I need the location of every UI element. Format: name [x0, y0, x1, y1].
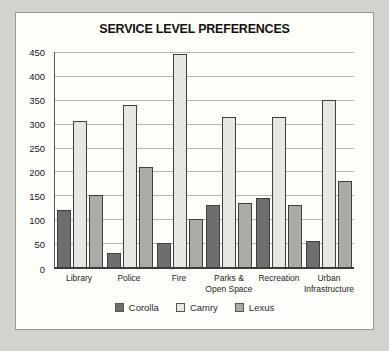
- bar-lexus-1: [89, 195, 103, 267]
- legend-item-camry: Camry: [176, 302, 218, 313]
- y-axis-labels: 050100150200250300350400450: [16, 52, 49, 269]
- legend-swatch-camry: [176, 303, 185, 312]
- bar-camry-4: [222, 117, 236, 268]
- legend-label-lexus: Lexus: [249, 302, 274, 313]
- bar-group-4: [204, 52, 254, 267]
- chart-title: SERVICE LEVEL PREFERENCES: [16, 22, 373, 36]
- y-tick-label-400: 400: [16, 71, 45, 81]
- y-tick-label-100: 100: [16, 216, 45, 226]
- x-category-label-2: Police: [104, 273, 154, 295]
- legend-swatch-lexus: [235, 303, 244, 312]
- bar-group-3: [155, 52, 205, 267]
- bar-corolla-5: [256, 198, 270, 267]
- bar-group-1: [55, 52, 105, 267]
- bar-corolla-4: [206, 205, 220, 267]
- legend-label-camry: Camry: [190, 302, 218, 313]
- bar-corolla-2: [107, 253, 121, 267]
- chart-panel: SERVICE LEVEL PREFERENCES 05010015020025…: [15, 12, 374, 330]
- bar-chart: SERVICE LEVEL PREFERENCES 05010015020025…: [16, 13, 373, 329]
- x-category-label-5: Recreation: [254, 273, 304, 295]
- legend: CorollaCamryLexus: [16, 302, 373, 313]
- bar-lexus-2: [139, 167, 153, 267]
- bar-corolla-1: [57, 210, 71, 267]
- bar-corolla-3: [157, 243, 171, 267]
- legend-item-lexus: Lexus: [235, 302, 274, 313]
- x-category-label-3: Fire: [154, 273, 204, 295]
- y-tick-label-150: 150: [16, 192, 45, 202]
- y-tick-label-300: 300: [16, 120, 45, 130]
- bar-group-5: [254, 52, 304, 267]
- legend-label-corolla: Corolla: [129, 302, 159, 313]
- y-tick-label-350: 350: [16, 95, 45, 105]
- y-tick-label-0: 0: [16, 264, 45, 274]
- x-category-label-6: Urban Infrastructure: [304, 273, 354, 295]
- bar-group-2: [105, 52, 155, 267]
- legend-swatch-corolla: [115, 303, 124, 312]
- y-tick-label-200: 200: [16, 168, 45, 178]
- bar-camry-2: [123, 105, 137, 267]
- bar-camry-1: [73, 121, 87, 267]
- x-category-label-4: Parks & Open Space: [204, 273, 254, 295]
- y-tick-label-50: 50: [16, 240, 45, 250]
- bar-group-6: [304, 52, 354, 267]
- y-tick-label-450: 450: [16, 47, 45, 57]
- bar-corolla-6: [306, 241, 320, 267]
- legend-item-corolla: Corolla: [115, 302, 159, 313]
- desktop-background: { "window": { "background_color": "#d2d2…: [0, 0, 389, 351]
- bar-lexus-6: [338, 181, 352, 267]
- x-axis-labels: LibraryPoliceFireParks & Open SpaceRecre…: [54, 273, 354, 295]
- bar-camry-3: [173, 54, 187, 267]
- x-category-label-1: Library: [54, 273, 104, 295]
- bar-lexus-3: [189, 219, 203, 267]
- plot-area: [54, 52, 354, 269]
- y-tick-label-250: 250: [16, 144, 45, 154]
- bar-camry-6: [322, 100, 336, 267]
- bar-camry-5: [272, 117, 286, 268]
- bar-groups: [55, 52, 354, 267]
- bar-lexus-5: [288, 205, 302, 267]
- bar-lexus-4: [238, 203, 252, 268]
